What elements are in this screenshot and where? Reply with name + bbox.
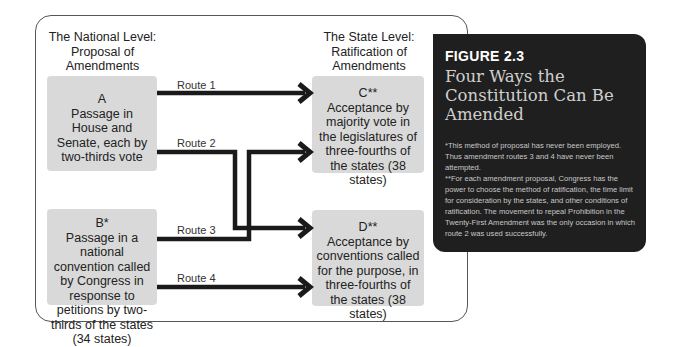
footnote-single-asterisk: *This method of proposal has never been …: [445, 140, 636, 173]
figure-notes: *This method of proposal has never been …: [445, 140, 636, 239]
route-4-label: Route 4: [177, 272, 216, 284]
route-1-label: Route 1: [177, 79, 216, 91]
footnote-double-asterisk: **For each amendment proposal, Congress …: [445, 173, 636, 239]
route-2-line: [157, 152, 305, 228]
figure-title: Four Ways the Constitution Can Be Amende…: [445, 67, 636, 124]
route-2-label: Route 2: [177, 137, 216, 149]
figure-caption-panel: FIGURE 2.3 Four Ways the Constitution Ca…: [433, 34, 646, 252]
figure-number: FIGURE 2.3: [445, 48, 636, 64]
route-3-label: Route 3: [177, 224, 216, 236]
